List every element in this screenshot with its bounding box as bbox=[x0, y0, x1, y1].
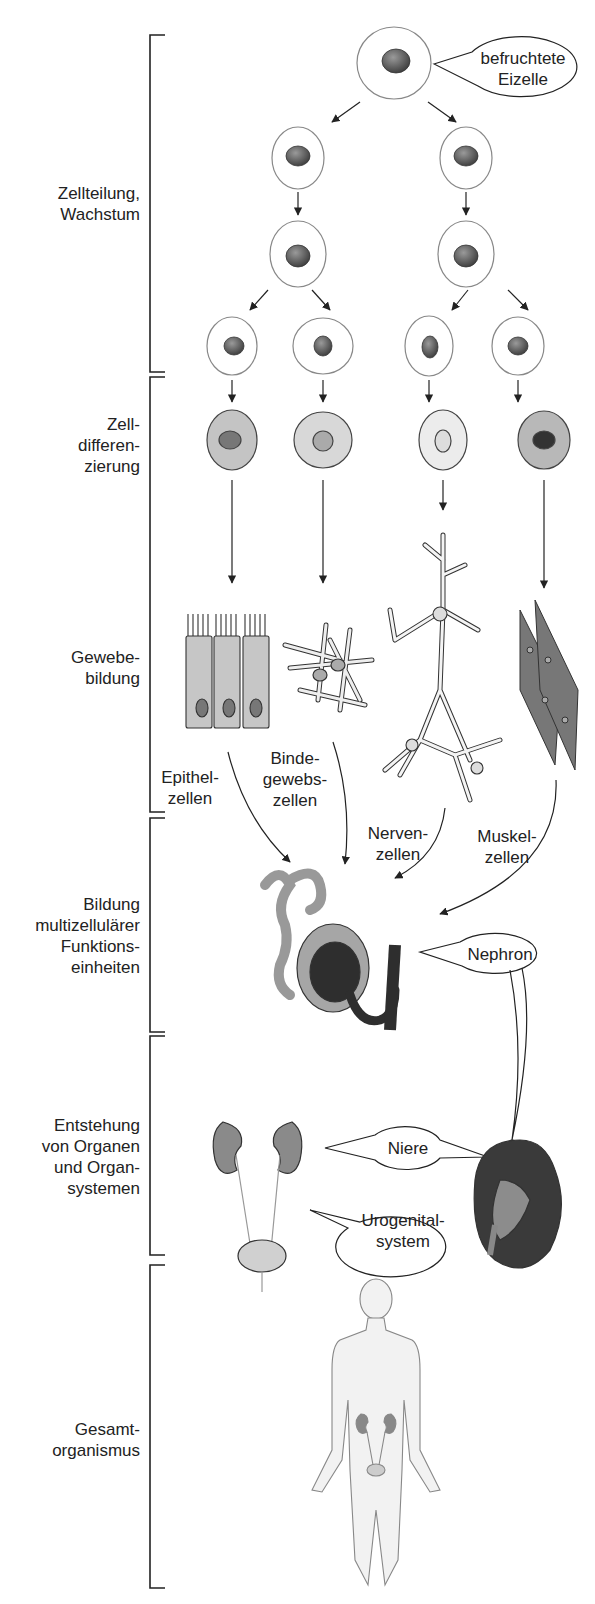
tissue-label-muskel: Muskel- zellen bbox=[467, 826, 547, 868]
nerve-tissue-icon bbox=[385, 535, 500, 800]
human-body-icon bbox=[312, 1279, 440, 1585]
stage-label-funktionseinheiten: Bildung multizellulärer Funktions- einhe… bbox=[35, 894, 140, 978]
stage-label-zellteilung: Zellteilung, Wachstum bbox=[58, 183, 140, 225]
callout-niere: Niere bbox=[376, 1138, 440, 1159]
epithelial-tissue-icon bbox=[186, 614, 269, 728]
tissue-label-epithel: Epithel- zellen bbox=[150, 767, 230, 809]
nephron-icon bbox=[265, 874, 395, 1030]
differentiation-arrows bbox=[232, 480, 544, 588]
kidney-cross-section-icon bbox=[474, 1140, 561, 1268]
callout-befruchtete-eizelle: befruchtete Eizelle bbox=[473, 48, 573, 90]
stage-label-gewebebildung: Gewebe- bildung bbox=[71, 647, 140, 689]
nephron-callout-bubble bbox=[420, 933, 537, 1146]
callout-nephron: Nephron bbox=[460, 944, 540, 965]
muscle-tissue-icon bbox=[520, 600, 578, 770]
stage-brackets bbox=[150, 35, 165, 1588]
stage-label-gesamtorganismus: Gesamt- organismus bbox=[52, 1419, 140, 1461]
tissue-label-binde: Binde- gewebs- zellen bbox=[255, 748, 335, 811]
differentiated-cells bbox=[207, 410, 570, 470]
urinary-system-icon bbox=[213, 1122, 302, 1292]
stage-label-zelldifferenzierung: Zell- differen- zierung bbox=[78, 414, 140, 477]
stage-label-organe: Entstehung von Organen und Organ- system… bbox=[42, 1115, 140, 1199]
cell-nuclei bbox=[224, 49, 528, 358]
tissue-label-nerven: Nerven- zellen bbox=[358, 823, 438, 865]
callout-urogenitalsystem: Urogenital- system bbox=[348, 1210, 458, 1252]
connective-tissue-icon bbox=[285, 625, 372, 710]
